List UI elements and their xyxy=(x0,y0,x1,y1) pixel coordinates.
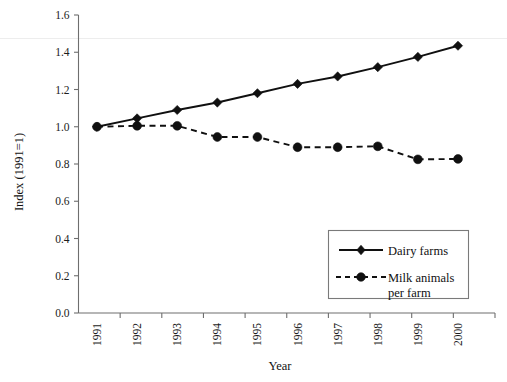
y-axis-ticks xyxy=(74,15,79,313)
legend-label-milk-animals-line2: per farm xyxy=(388,286,431,300)
x-tick-label: 1994 xyxy=(211,323,223,346)
x-tick-label: 1991 xyxy=(91,323,103,346)
data-point-circle xyxy=(93,122,102,131)
data-point-diamond xyxy=(413,52,422,61)
data-point-circle xyxy=(133,121,142,130)
x-tick-label: 1996 xyxy=(292,323,304,346)
legend: Dairy farms Milk animals per farm xyxy=(329,231,469,300)
data-point-diamond xyxy=(453,41,462,50)
line-chart: 0.00.20.40.60.81.01.21.41.6 199119921993… xyxy=(0,0,507,382)
x-tick-label: 1997 xyxy=(332,323,344,346)
data-point-circle xyxy=(173,121,182,130)
legend-label-dairy-farms: Dairy farms xyxy=(388,244,448,258)
y-tick-label: 1.0 xyxy=(55,121,70,133)
legend-marker-circle-icon xyxy=(357,273,366,282)
y-tick-label: 0.0 xyxy=(55,307,70,319)
legend-label-milk-animals-line1: Milk animals xyxy=(388,271,454,285)
x-tick-label: 1999 xyxy=(412,323,424,346)
y-axis-tick-labels: 0.00.20.40.60.81.01.21.41.6 xyxy=(55,9,70,319)
x-tick-label: 2000 xyxy=(452,323,464,346)
series-line xyxy=(97,126,458,160)
x-tick-label: 1998 xyxy=(372,323,384,346)
x-axis-ticks xyxy=(120,313,495,318)
y-tick-label: 1.2 xyxy=(55,84,70,96)
data-point-circle xyxy=(333,143,342,152)
series-line xyxy=(97,46,458,127)
x-axis-tick-labels: 1991199219931994199519961997199819992000 xyxy=(91,323,464,346)
data-point-circle xyxy=(293,143,302,152)
data-point-diamond xyxy=(213,98,222,107)
x-tick-label: 1992 xyxy=(131,323,143,346)
y-tick-label: 0.4 xyxy=(55,233,70,245)
data-point-diamond xyxy=(253,89,262,98)
y-tick-label: 1.4 xyxy=(55,46,70,58)
x-tick-label: 1995 xyxy=(251,323,263,346)
data-point-diamond xyxy=(333,72,342,81)
data-point-circle xyxy=(253,133,262,142)
data-series-group xyxy=(92,41,462,164)
data-point-diamond xyxy=(293,79,302,88)
data-point-circle xyxy=(373,142,382,151)
y-tick-label: 0.2 xyxy=(55,270,70,282)
data-point-diamond xyxy=(373,63,382,72)
y-tick-label: 1.6 xyxy=(55,9,70,21)
data-point-circle xyxy=(213,133,222,142)
y-tick-label: 0.6 xyxy=(55,195,70,207)
series-dairy-farms xyxy=(92,41,462,131)
x-tick-label: 1993 xyxy=(171,323,183,346)
data-point-circle xyxy=(454,155,463,164)
x-axis-title: Year xyxy=(268,359,292,373)
y-axis-title: Index (1991=1) xyxy=(12,133,26,211)
data-point-circle xyxy=(413,155,422,164)
y-tick-label: 0.8 xyxy=(55,158,70,170)
chart-container: 0.00.20.40.60.81.01.21.41.6 199119921993… xyxy=(0,0,507,382)
data-point-diamond xyxy=(173,105,182,114)
series-milk-animals-per-farm xyxy=(93,121,463,163)
